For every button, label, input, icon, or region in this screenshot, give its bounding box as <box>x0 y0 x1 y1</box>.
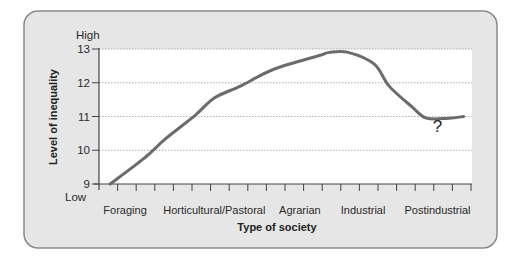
y-tick-label: 11 <box>78 111 90 123</box>
y-tick-label: 13 <box>77 43 90 55</box>
x-category-label: Foraging <box>103 204 146 216</box>
uncertainty-annotation: ? <box>433 117 442 136</box>
y-high-label: High <box>76 29 100 41</box>
x-category-label: Agrarian <box>279 204 321 216</box>
y-tick-label: 10 <box>77 144 90 156</box>
x-axis-title: Type of society <box>237 221 317 233</box>
x-category-label: Horticultural/Pastoral <box>163 204 265 216</box>
y-low-label: Low <box>65 191 87 203</box>
y-axis-title: Level of inequality <box>47 68 59 165</box>
y-tick-label: 12 <box>77 77 90 89</box>
y-tick-label: 9 <box>84 178 90 190</box>
chart: 910111213 ? High Low Level of inequality… <box>0 0 519 259</box>
x-category-label: Postindustrial <box>404 204 470 216</box>
x-category-label: Industrial <box>341 204 386 216</box>
